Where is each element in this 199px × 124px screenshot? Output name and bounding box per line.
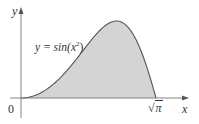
sqrt-pi-tick-label: √π [148, 102, 163, 114]
radical-sign: √ [148, 101, 155, 115]
curve-label-suffix: ) [79, 41, 83, 53]
curve-label: y = sin(x2) [35, 38, 83, 53]
diagram-canvas: y 0 x y = sin(x2) √π [0, 0, 199, 124]
x-axis-arrow-icon [182, 96, 189, 101]
curve-label-prefix: y = sin( [35, 41, 71, 53]
origin-label: 0 [8, 103, 14, 115]
area-under-curve-plot [0, 0, 199, 124]
pi-symbol: π [155, 100, 163, 115]
shaded-region [21, 21, 156, 98]
x-axis-label: x [182, 103, 187, 115]
y-axis-arrow-icon [19, 7, 24, 14]
y-axis-label: y [12, 5, 17, 17]
